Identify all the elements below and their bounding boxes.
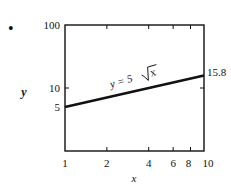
x-tick-label: 1 <box>62 157 68 169</box>
equation-radicand: x <box>149 65 158 78</box>
end-value-label: 15.8 <box>207 66 227 78</box>
plot-frame <box>65 25 204 151</box>
equation-text: y = 5 <box>107 72 134 90</box>
x-axis-label: x <box>131 172 137 184</box>
x-tick-label: 10 <box>203 157 215 169</box>
y-axis-label: y <box>19 85 27 99</box>
y-tick-label: 5 <box>55 101 61 113</box>
x-tick-labels: 1246810 <box>62 157 214 169</box>
x-tick-label: 4 <box>146 157 152 169</box>
y-tick-label: 100 <box>44 19 61 31</box>
chart: • 1246810 100105 y = 5 x 15.8 x y <box>0 0 231 192</box>
bullet-marker: • <box>8 20 14 37</box>
x-tick-label: 8 <box>186 157 192 169</box>
x-tick-label: 2 <box>104 157 110 169</box>
x-tick-label: 6 <box>170 157 176 169</box>
y-tick-labels: 100105 <box>44 19 61 113</box>
data-line <box>65 75 204 106</box>
y-tick-label: 10 <box>49 82 61 94</box>
